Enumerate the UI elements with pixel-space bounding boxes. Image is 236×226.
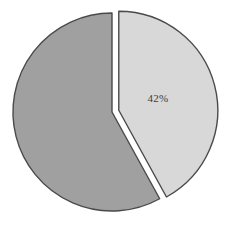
pie-chart-canvas: 42%: [0, 0, 236, 226]
pie-chart-figure: 42%: [0, 0, 236, 226]
pie-slice-label-segment-a: 42%: [148, 92, 169, 104]
